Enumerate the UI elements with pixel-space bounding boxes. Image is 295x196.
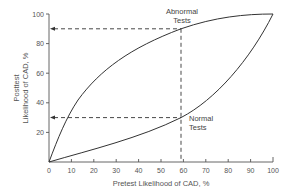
y-tick-labels: 100 80 60 40 20 bbox=[32, 11, 44, 136]
x-tick-50: 50 bbox=[157, 167, 165, 174]
y-tick-20: 20 bbox=[36, 129, 44, 136]
x-tick-100: 100 bbox=[267, 167, 279, 174]
x-tick-30: 30 bbox=[112, 167, 120, 174]
x-axis-title: Pretest Likelihood of CAD, % bbox=[113, 179, 210, 188]
y-tick-40: 40 bbox=[36, 99, 44, 106]
normal-tests-label: Normal Tests bbox=[189, 114, 214, 132]
y-tick-80: 80 bbox=[36, 40, 44, 47]
x-tick-70: 70 bbox=[202, 167, 210, 174]
x-tick-60: 60 bbox=[180, 167, 188, 174]
arrow-left-icon bbox=[50, 116, 55, 120]
x-tick-90: 90 bbox=[247, 167, 255, 174]
arrow-left-icon bbox=[50, 27, 55, 31]
chart: 100 80 60 40 20 0 10 20 30 40 50 60 70 8… bbox=[0, 0, 295, 196]
y-tick-60: 60 bbox=[36, 70, 44, 77]
normal-tests-curve bbox=[49, 14, 273, 162]
x-tick-20: 20 bbox=[90, 167, 98, 174]
y-tick-100: 100 bbox=[32, 11, 44, 18]
y-axis-title-line2: Likelihood of CAD, % bbox=[21, 52, 30, 123]
x-tick-40: 40 bbox=[135, 167, 143, 174]
abnormal-tests-label: Abnormal Tests bbox=[166, 7, 198, 25]
x-tick-10: 10 bbox=[68, 167, 76, 174]
normal-label-line2: Tests bbox=[189, 123, 207, 132]
abnormal-tests-curve bbox=[49, 14, 273, 162]
curves bbox=[49, 14, 273, 162]
y-axis-title: Posttest Likelihood of CAD, % bbox=[12, 52, 30, 123]
x-tick-80: 80 bbox=[224, 167, 232, 174]
guide-arrows bbox=[50, 27, 55, 120]
axes bbox=[46, 14, 273, 162]
x-tick-0: 0 bbox=[47, 167, 51, 174]
abnormal-label-line2: Tests bbox=[173, 16, 191, 25]
x-tick-labels: 0 10 20 30 40 50 60 70 80 90 100 bbox=[47, 167, 279, 174]
